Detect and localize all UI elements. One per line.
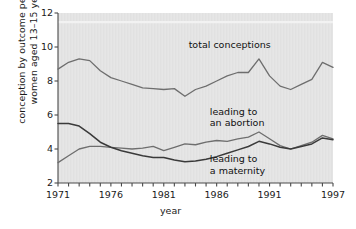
annotation-leading-to-an-abortion: leading to an abortion <box>210 106 265 129</box>
x-tick-label: 1991 <box>253 190 287 200</box>
x-tick-label: 1997 <box>316 190 350 200</box>
y-tick-label: 8 <box>37 76 53 86</box>
x-tick-label: 1986 <box>200 190 234 200</box>
y-tick-label: 6 <box>37 110 53 120</box>
x-tick-label: 1981 <box>147 190 181 200</box>
y-tick-label: 12 <box>37 8 53 18</box>
x-tick-label: 1971 <box>41 190 75 200</box>
annotation-total-conceptions: total conceptions <box>189 39 271 51</box>
y-tick-label: 4 <box>37 144 53 154</box>
x-axis-label: year <box>160 205 181 216</box>
chart-figure: conception by outcome per 1 000 women ag… <box>0 0 356 229</box>
x-tick-label: 1976 <box>94 190 128 200</box>
background-light-band <box>58 21 333 23</box>
y-tick-label: 10 <box>37 42 53 52</box>
y-tick-label: 2 <box>37 178 53 188</box>
annotation-leading-to-a-maternity: leading to a maternity <box>210 153 265 176</box>
